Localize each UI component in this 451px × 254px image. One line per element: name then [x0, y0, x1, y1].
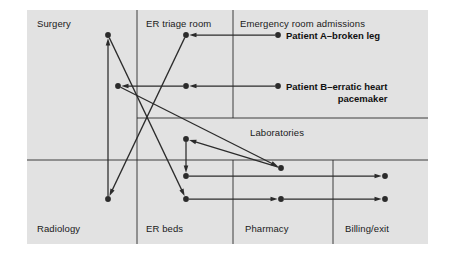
node-n-radiology: [105, 196, 111, 202]
edge-line: [109, 38, 182, 191]
zone-label-er-admit: Emergency room admissions: [240, 18, 365, 29]
zone-label-surgery: Surgery: [37, 18, 71, 29]
zone-label-radiology: Radiology: [37, 223, 80, 234]
arrowhead-icon: [189, 33, 196, 38]
edge-e-bedmid-to-billing: [189, 174, 382, 179]
patient-label-patient-b: Patient B–erratic heart pacemaker: [286, 81, 387, 104]
swimlane-dividers: [27, 10, 428, 244]
node-n-triage-mid: [183, 83, 189, 89]
edge-e-admitB-to-triage: [189, 84, 275, 89]
diagram-canvas: SurgeryER triage roomEmergency room admi…: [0, 0, 451, 254]
edge-e-triageB-to-surgerymid: [121, 84, 183, 89]
zone-label-pharmacy: Pharmacy: [245, 223, 289, 234]
arrowhead-icon: [184, 166, 189, 173]
node-n-bed-top: [183, 136, 189, 142]
node-n-triage-top: [183, 32, 189, 38]
node-n-billing-lower: [382, 196, 388, 202]
node-n-lab: [278, 165, 284, 171]
node-n-surgery-top: [105, 32, 111, 38]
patient-label-patient-a: Patient A–broken leg: [286, 30, 380, 42]
arrowhead-icon: [179, 189, 184, 196]
zone-label-er-beds: ER beds: [146, 223, 183, 234]
node-n-bed-mid: [183, 173, 189, 179]
node-n-admit-b: [275, 83, 281, 89]
zone-label-labs: Laboratories: [250, 127, 304, 138]
arrowhead-icon: [109, 189, 114, 196]
edge-layer: [106, 33, 382, 202]
arrowhead-icon: [189, 140, 197, 144]
flow-graph: [0, 0, 451, 254]
edge-e-admitA-to-triage: [189, 33, 275, 38]
zone-label-er-triage: ER triage room: [146, 18, 211, 29]
node-n-admit-a: [275, 32, 281, 38]
zone-label-billing: Billing/exit: [345, 223, 389, 234]
arrowhead-icon: [375, 197, 382, 202]
edge-e-radiology-to-surgery: [106, 38, 111, 196]
arrowhead-icon: [189, 84, 196, 89]
node-n-pharmacy: [278, 196, 284, 202]
arrowhead-icon: [271, 197, 278, 202]
node-n-bed-bottom: [183, 196, 189, 202]
arrowhead-icon: [375, 174, 382, 179]
edge-e-bedtop-to-bedmid: [184, 142, 189, 173]
node-n-billing-upper: [382, 173, 388, 179]
node-n-surgery-mid: [115, 83, 121, 89]
